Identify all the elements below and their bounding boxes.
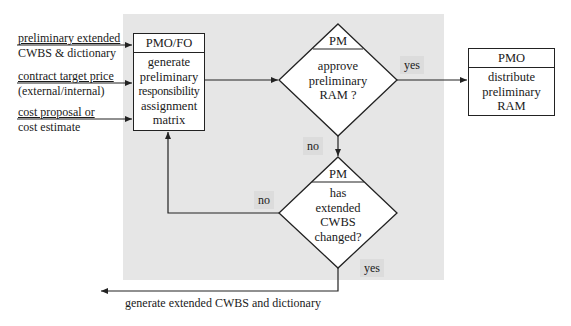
process-role: PMO/FO <box>134 34 204 53</box>
changed-decision-role: PM <box>300 167 376 182</box>
process-line: preliminary <box>134 70 204 85</box>
decision-line: RAM ? <box>296 88 380 103</box>
output-line: preliminary <box>469 85 554 100</box>
output-description: distribute preliminary RAM <box>469 68 554 114</box>
output-line: RAM <box>469 99 554 114</box>
output-role: PMO <box>469 49 554 68</box>
approve-no-label: no <box>303 137 323 155</box>
changed-decision-text: has extended CWBS changed? <box>296 186 380 244</box>
decision-line: extended <box>296 201 380 216</box>
input-label-3-line1: cost proposal or <box>18 105 95 119</box>
changed-no-label: no <box>254 191 274 209</box>
approve-yes-label: yes <box>400 56 424 74</box>
decision-line: preliminary <box>296 74 380 89</box>
process-description: generate preliminary responsibility assi… <box>134 53 204 128</box>
input-label-2-line1: contract target price <box>18 69 114 83</box>
decision-line: CWBS <box>296 215 380 230</box>
process-line: assignment <box>134 99 204 114</box>
output-line: distribute <box>469 70 554 85</box>
process-line: responsibility <box>134 84 204 99</box>
distribute-ram-box: PMO distribute preliminary RAM <box>468 48 555 116</box>
approve-decision-text: approve preliminary RAM ? <box>296 59 380 103</box>
changed-yes-label: yes <box>360 259 384 277</box>
process-line: matrix <box>134 113 204 128</box>
input-label-2-line2: (external/internal) <box>18 84 105 98</box>
approve-decision-role: PM <box>300 34 376 49</box>
flowchart-canvas: preliminary extended CWBS & dictionary c… <box>0 0 571 326</box>
output-arrow-label: generate extended CWBS and dictionary <box>125 296 321 310</box>
decision-line: has <box>296 186 380 201</box>
input-label-1-line1: preliminary extended <box>18 31 120 45</box>
process-line: generate <box>134 55 204 70</box>
input-label-3-line2: cost estimate <box>18 120 80 134</box>
decision-line: changed? <box>296 230 380 245</box>
generate-ram-process-box: PMO/FO generate preliminary responsibili… <box>133 33 205 131</box>
input-label-1-line2: CWBS & dictionary <box>18 46 116 60</box>
changed-yes-output-arrow <box>101 268 338 291</box>
decision-line: approve <box>296 59 380 74</box>
